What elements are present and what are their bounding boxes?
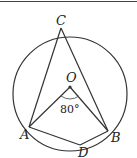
angle-arc xyxy=(61,96,79,99)
label-a: A xyxy=(19,127,29,142)
angle-label: 80° xyxy=(60,103,80,116)
segment-ad xyxy=(29,127,80,145)
diagram-svg: C O A B D 80° xyxy=(0,0,137,158)
circle xyxy=(13,37,127,151)
center-point xyxy=(68,85,71,88)
label-c: C xyxy=(56,13,66,28)
label-d: D xyxy=(77,145,89,158)
segment-db xyxy=(80,131,108,145)
geometry-diagram: C O A B D 80° xyxy=(0,0,137,158)
label-b: B xyxy=(110,130,121,145)
label-o: O xyxy=(66,70,77,85)
